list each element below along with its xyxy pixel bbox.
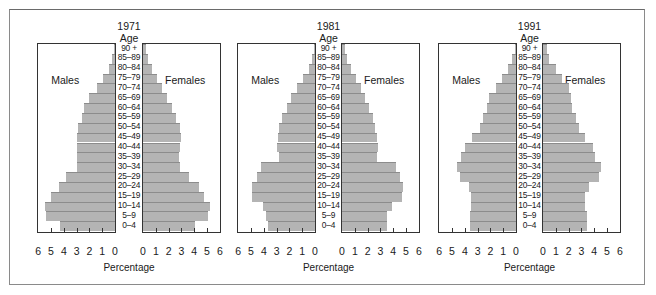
female-bar: [342, 162, 396, 172]
x-tick-label: 4: [58, 245, 70, 257]
x-tick-label: 5: [45, 245, 57, 257]
x-tick: [181, 228, 182, 233]
x-tick-label: 5: [446, 245, 458, 257]
male-bar: [103, 74, 115, 84]
male-bar: [46, 211, 115, 221]
male-bar: [303, 74, 315, 84]
male-bar: [45, 202, 115, 212]
x-tick-label: 3: [71, 245, 83, 257]
female-bar: [143, 162, 180, 172]
x-tick-label: 4: [188, 245, 200, 257]
x-tick-label: 3: [575, 245, 587, 257]
male-bar: [297, 83, 315, 93]
female-bar: [543, 182, 589, 192]
male-bar: [51, 192, 115, 202]
female-bar: [143, 103, 172, 113]
age-group-label: 30–34: [516, 162, 544, 172]
x-tick-label: 2: [563, 245, 575, 257]
age-group-label: 0–4: [516, 221, 544, 231]
x-tick: [503, 228, 504, 233]
x-tick-label: 1: [497, 245, 509, 257]
female-bar: [342, 103, 369, 113]
x-tick: [77, 228, 78, 233]
male-bar: [287, 103, 315, 113]
age-group-label: 30–34: [315, 162, 343, 172]
x-axis-label: Percentage: [89, 262, 169, 273]
female-bar: [143, 143, 180, 153]
x-tick: [102, 228, 103, 233]
year-title: 1981: [309, 20, 349, 32]
male-bar: [77, 152, 115, 162]
female-bar: [543, 93, 571, 103]
x-tick-label: 0: [309, 245, 321, 257]
x-tick-label: 1: [296, 245, 308, 257]
female-bar: [543, 192, 585, 202]
female-bar: [143, 172, 189, 182]
female-bar: [543, 64, 556, 74]
male-bar: [487, 103, 516, 113]
x-tick: [194, 228, 195, 233]
female-bar: [342, 211, 387, 221]
female-bar: [143, 152, 179, 162]
year-title: 1971: [109, 20, 149, 32]
male-bar: [489, 93, 516, 103]
female-bar: [143, 44, 146, 54]
female-bar: [342, 64, 351, 74]
x-tick-label: 3: [374, 245, 386, 257]
female-bar: [342, 54, 347, 64]
x-tick-label: 6: [214, 245, 226, 257]
x-tick-label: 0: [336, 245, 348, 257]
male-bar: [77, 162, 115, 172]
male-bar: [268, 221, 315, 231]
age-group-label: 30–34: [115, 162, 143, 172]
female-bar: [543, 152, 595, 162]
x-tick-label: 4: [588, 245, 600, 257]
male-bar: [77, 133, 115, 143]
male-bar: [496, 83, 516, 93]
age-group-label: 65–69: [516, 93, 544, 103]
x-tick: [380, 228, 381, 233]
x-tick: [64, 228, 65, 233]
female-bar: [342, 113, 373, 123]
female-bar: [543, 162, 601, 172]
x-tick-label: 0: [137, 245, 149, 257]
x-tick: [393, 228, 394, 233]
x-tick: [594, 228, 595, 233]
x-tick: [156, 228, 157, 233]
male-bar: [465, 143, 516, 153]
male-bar: [471, 202, 516, 212]
age-group-label: 0–4: [115, 221, 143, 231]
x-tick-label: 6: [433, 245, 445, 257]
x-tick-label: 0: [510, 245, 522, 257]
female-bar: [143, 64, 152, 74]
female-bar: [342, 202, 392, 212]
age-group-label: 65–69: [315, 93, 343, 103]
x-tick: [406, 228, 407, 233]
female-bar: [543, 143, 593, 153]
female-bar: [143, 93, 167, 103]
female-bar: [342, 123, 375, 133]
male-bar: [460, 172, 516, 182]
x-tick-label: 1: [550, 245, 562, 257]
x-tick-label: 2: [83, 245, 95, 257]
female-bar: [143, 123, 180, 133]
female-bar: [342, 83, 361, 93]
x-tick: [452, 228, 453, 233]
male-bar: [263, 202, 315, 212]
x-tick-label: 4: [459, 245, 471, 257]
male-bar: [59, 182, 115, 192]
x-tick: [355, 228, 356, 233]
male-bar: [470, 211, 516, 221]
male-bar: [278, 133, 315, 143]
x-tick: [277, 228, 278, 233]
x-tick-label: 2: [283, 245, 295, 257]
x-tick-label: 5: [400, 245, 412, 257]
male-bar: [97, 83, 115, 93]
male-bar: [82, 113, 115, 123]
x-tick: [465, 228, 466, 233]
x-tick: [607, 228, 608, 233]
x-tick: [368, 228, 369, 233]
female-bar: [143, 192, 204, 202]
female-bar: [143, 202, 210, 212]
female-bar: [143, 133, 181, 143]
